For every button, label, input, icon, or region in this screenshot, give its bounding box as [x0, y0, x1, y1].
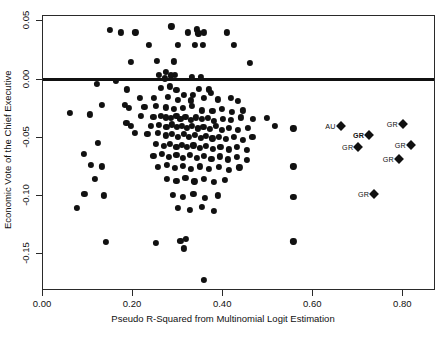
y-tick-label: 0.05	[20, 11, 31, 30]
data-point	[231, 134, 237, 140]
data-point	[128, 122, 134, 128]
data-point	[250, 116, 256, 122]
data-point	[206, 166, 212, 172]
y-axis-label: Economic Vote of the Chief Executive	[2, 0, 13, 300]
data-point	[223, 136, 229, 142]
data-point	[144, 131, 150, 137]
data-point	[203, 143, 209, 149]
data-point	[186, 134, 192, 140]
data-point	[138, 113, 144, 119]
x-tick-label: 0.20	[123, 298, 142, 309]
data-point	[240, 107, 246, 113]
data-point	[173, 178, 179, 184]
labeled-data-point	[406, 140, 416, 150]
data-point	[175, 42, 181, 48]
data-point	[185, 29, 191, 35]
data-point	[197, 145, 203, 151]
data-point	[234, 154, 240, 160]
data-point	[118, 29, 124, 35]
data-point	[224, 29, 230, 35]
data-point	[228, 94, 234, 100]
x-tick	[222, 290, 223, 296]
data-point	[92, 176, 98, 182]
data-point	[156, 122, 162, 128]
data-point	[229, 108, 235, 114]
data-point	[173, 152, 179, 158]
labeled-data-point	[369, 189, 379, 199]
data-point	[272, 122, 278, 128]
data-point	[215, 192, 221, 198]
data-point	[180, 105, 186, 111]
x-tick	[132, 290, 133, 296]
data-point	[290, 125, 296, 131]
data-point	[236, 164, 242, 170]
data-point	[155, 130, 161, 136]
data-point	[244, 157, 250, 163]
data-point	[211, 208, 217, 214]
x-tick	[42, 290, 43, 296]
labeled-data-point	[364, 130, 374, 140]
data-point	[153, 240, 159, 246]
data-point	[192, 42, 198, 48]
data-point	[245, 125, 251, 131]
data-point	[150, 114, 156, 120]
data-point	[162, 104, 168, 110]
data-point	[234, 127, 240, 133]
data-point	[240, 136, 246, 142]
data-point	[74, 205, 80, 211]
data-point	[207, 90, 213, 96]
data-point	[210, 146, 216, 152]
data-point	[164, 162, 170, 168]
data-point	[167, 141, 173, 147]
data-point	[225, 125, 231, 131]
data-point	[98, 101, 104, 107]
data-point	[213, 123, 219, 129]
data-point	[190, 191, 196, 197]
data-point	[159, 151, 165, 157]
data-point	[94, 81, 100, 87]
data-point	[205, 115, 211, 121]
data-point	[157, 85, 163, 91]
data-point	[191, 178, 197, 184]
data-point	[198, 204, 204, 210]
data-point	[148, 123, 154, 129]
data-point	[154, 58, 160, 64]
data-point	[164, 175, 170, 181]
data-point	[188, 166, 194, 172]
data-point	[180, 245, 186, 251]
data-point	[175, 205, 181, 211]
data-point	[222, 177, 228, 183]
data-point	[264, 115, 270, 121]
x-axis-label: Pseudo R-Squared from Multinomial Logit …	[0, 313, 446, 324]
data-point	[165, 94, 171, 100]
data-point	[200, 124, 206, 130]
plot-area: AUGRGRGRGRGRGR	[42, 15, 435, 290]
x-tick-label: 0.60	[303, 298, 322, 309]
y-tick-label: -0.15	[20, 242, 31, 264]
data-point	[201, 95, 207, 101]
data-point	[201, 176, 207, 182]
data-point	[201, 153, 207, 159]
x-tick-label: 0.00	[33, 298, 52, 309]
data-point	[231, 42, 237, 48]
data-point	[67, 110, 73, 116]
data-point	[238, 114, 244, 120]
data-point	[98, 163, 104, 169]
data-point-label: GR	[387, 119, 398, 128]
data-point	[180, 154, 186, 160]
data-point	[88, 162, 94, 168]
data-point	[197, 163, 203, 169]
data-point	[171, 58, 177, 64]
data-point	[187, 152, 193, 158]
data-point	[184, 144, 190, 150]
data-point	[196, 86, 202, 92]
data-point-label: AU	[325, 122, 335, 131]
data-point	[173, 87, 179, 93]
data-point	[151, 94, 157, 100]
x-tick	[402, 290, 403, 296]
data-point	[244, 147, 250, 153]
data-point	[155, 164, 161, 170]
data-point	[220, 116, 226, 122]
data-point-label: GR	[395, 141, 406, 150]
data-point	[171, 165, 177, 171]
